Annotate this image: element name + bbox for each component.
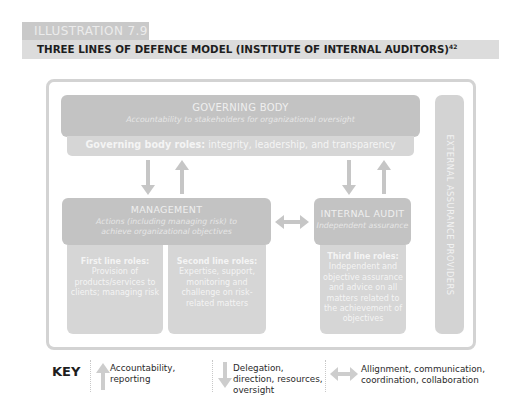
first-line-label: First line roles:	[67, 257, 163, 267]
key-item-delegation: Delegation, direction, resources, oversi…	[233, 363, 323, 396]
second-line-label: Second line roles:	[168, 257, 266, 267]
internal-audit-title: INTERNAL AUDIT	[314, 208, 411, 219]
arrow-down-icon	[218, 362, 232, 390]
arrow-double-icon	[330, 367, 358, 381]
management-title: MANAGEMENT	[62, 204, 271, 215]
second-line-roles: Second line roles: Expertise, support, m…	[168, 245, 266, 334]
first-line-roles: First line roles: Provision of products/…	[67, 245, 163, 334]
roles-text: integrity, leadership, and transparency	[205, 139, 395, 150]
governing-body-roles: Governing body roles: integrity, leaders…	[67, 136, 414, 156]
first-line-text: Provision of products/services to client…	[71, 267, 159, 297]
footnote-ref: 42	[449, 43, 457, 50]
governing-body-box: GOVERNING BODY Accountability to stakeho…	[61, 95, 420, 137]
key-divider	[90, 360, 91, 392]
third-line-label: Third line roles:	[320, 252, 406, 262]
key-divider	[212, 360, 213, 392]
key-item-accountability: Accountability, reporting	[110, 363, 210, 385]
external-assurance-label: EXTERNAL ASSURANCE PROVIDERS	[445, 134, 455, 295]
key-item-alignment: Allignment, communication, coordination,…	[361, 364, 486, 386]
illustration-tab: ILLUSTRATION 7.9	[22, 22, 149, 41]
management-subtitle: Actions (including managing risk) to ach…	[82, 217, 251, 237]
second-line-text: Expertise, support, monitoring and chall…	[179, 267, 255, 307]
governing-body-title: GOVERNING BODY	[61, 102, 420, 113]
arrow-up-icon	[96, 362, 110, 390]
key-divider	[325, 360, 326, 392]
management-box: MANAGEMENT Actions (including managing r…	[62, 198, 271, 245]
roles-label: Governing body roles:	[85, 139, 205, 150]
external-assurance-bar: EXTERNAL ASSURANCE PROVIDERS	[435, 95, 464, 334]
title-text: THREE LINES OF DEFENCE MODEL (INSTITUTE …	[37, 43, 449, 55]
page-title: THREE LINES OF DEFENCE MODEL (INSTITUTE …	[22, 40, 499, 59]
third-line-text: Independent and objective assurance and …	[323, 262, 403, 323]
third-line-roles: Third line roles: Independent and object…	[320, 245, 406, 334]
key-label: KEY	[52, 364, 80, 379]
internal-audit-subtitle: Independent assurance	[314, 221, 411, 230]
governing-body-subtitle: Accountability to stakeholders for organ…	[61, 115, 420, 124]
internal-audit-box: INTERNAL AUDIT Independent assurance	[314, 198, 411, 245]
